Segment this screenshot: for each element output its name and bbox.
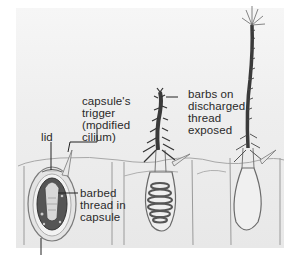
label-barbed-thread: barbed thread in capsule bbox=[80, 187, 126, 223]
tip-spines bbox=[242, 6, 265, 25]
label-barbs: barbs on discharged thread exposed bbox=[188, 88, 245, 136]
label-trigger: capsule's trigger (modified cilium) bbox=[82, 95, 130, 143]
cnidocyte-illustration bbox=[0, 0, 298, 257]
stage-undischarged bbox=[28, 150, 76, 241]
label-lid: lid bbox=[41, 131, 53, 143]
